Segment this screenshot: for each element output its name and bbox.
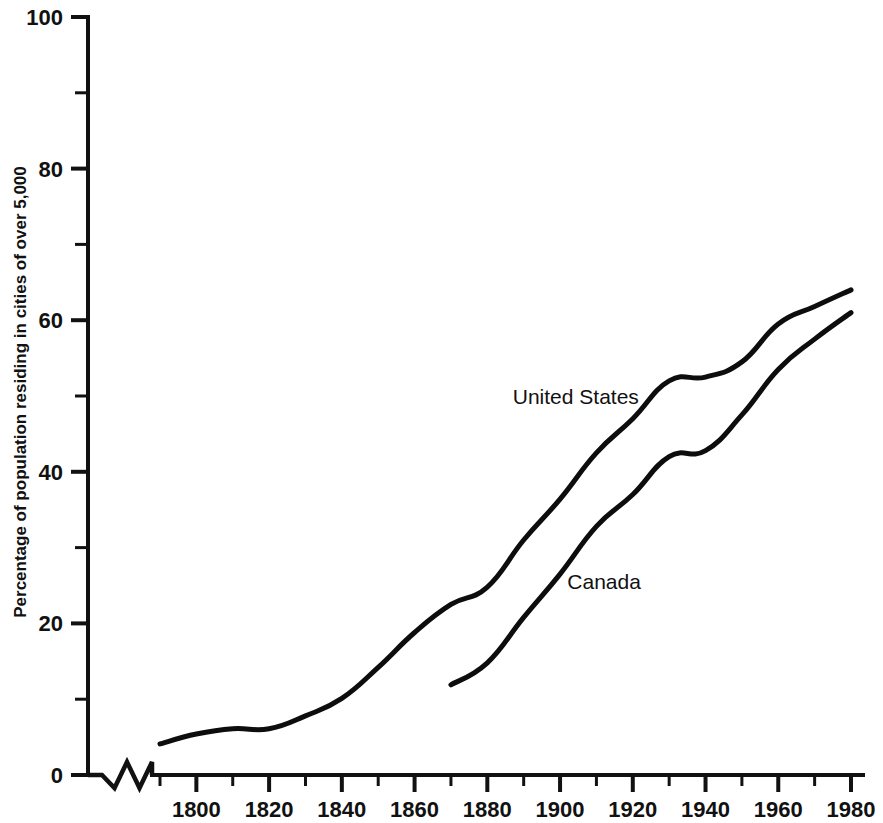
x-tick-label: 1960 (754, 797, 803, 822)
x-tick-label: 1860 (390, 797, 439, 822)
y-axis-ticks (71, 17, 88, 775)
y-tick-label: 80 (39, 157, 63, 182)
series-label-united-states: United States (513, 385, 639, 408)
x-axis-break-zigzag (88, 762, 152, 788)
x-tick-label: 1880 (463, 797, 512, 822)
y-axis-title: Percentage of population residing in cit… (11, 166, 30, 618)
data-series-group (160, 290, 851, 744)
series-annotation-labels: United StatesCanada (513, 385, 641, 594)
y-axis-tick-labels: 020406080100 (26, 5, 63, 788)
x-tick-label: 1900 (536, 797, 585, 822)
x-axis-tick-labels: 1800182018401860188019001920194019601980 (172, 797, 876, 822)
y-tick-label: 60 (39, 308, 63, 333)
chart-figure: Percentage of population residing in cit… (0, 0, 883, 823)
series-line-united-states (160, 290, 851, 744)
y-tick-label: 40 (39, 460, 63, 485)
x-tick-label: 1800 (172, 797, 221, 822)
x-tick-label: 1980 (827, 797, 876, 822)
x-tick-label: 1920 (608, 797, 657, 822)
x-tick-label: 1840 (317, 797, 366, 822)
series-line-canada (451, 313, 851, 685)
y-tick-label: 0 (51, 763, 63, 788)
population-urbanization-line-chart: Percentage of population residing in cit… (0, 0, 883, 823)
x-axis-ticks (160, 775, 851, 792)
y-tick-label: 20 (39, 611, 63, 636)
x-tick-label: 1940 (681, 797, 730, 822)
series-label-canada: Canada (567, 570, 641, 593)
y-tick-label: 100 (26, 5, 63, 30)
x-tick-label: 1820 (245, 797, 294, 822)
